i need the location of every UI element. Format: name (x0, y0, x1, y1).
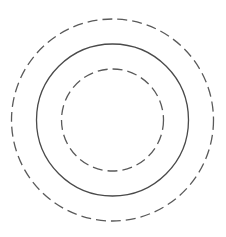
inner-dashed-circle (62, 69, 164, 171)
outer-dashed-circle (12, 19, 214, 221)
concentric-circles-diagram (0, 0, 226, 237)
middle-solid-circle (37, 44, 189, 196)
